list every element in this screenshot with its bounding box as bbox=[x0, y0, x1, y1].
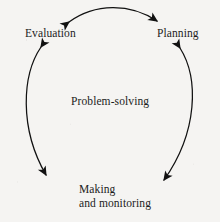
arrow-right-cycle bbox=[164, 48, 192, 180]
node-label-evaluation: Evaluation bbox=[25, 27, 76, 41]
node-label-planning: Planning bbox=[157, 27, 199, 41]
center-label-problem-solving: Problem-solving bbox=[71, 95, 149, 109]
node-label-making-line2: and monitoring bbox=[79, 196, 151, 210]
arrow-evaluation-planning bbox=[69, 8, 157, 22]
node-label-making-and-monitoring: Making and monitoring bbox=[79, 182, 151, 210]
arrow-left-cycle bbox=[26, 47, 46, 175]
node-label-making-line1: Making bbox=[79, 182, 151, 196]
problem-solving-cycle-diagram: Evaluation Planning Problem-solving Maki… bbox=[0, 0, 220, 222]
